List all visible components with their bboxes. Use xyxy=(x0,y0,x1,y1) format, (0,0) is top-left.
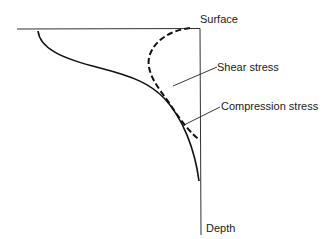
surface-line xyxy=(17,29,200,30)
compression-stress-curve xyxy=(38,31,199,181)
surface-label: Surface xyxy=(200,13,238,25)
shear-stress-label: Shear stress xyxy=(217,61,279,73)
depth-label: Depth xyxy=(206,222,235,234)
stress-depth-diagram xyxy=(0,0,329,239)
shear-stress-curve xyxy=(149,28,200,140)
depth-axis xyxy=(200,29,201,236)
compression-stress-label: Compression stress xyxy=(221,100,318,112)
compression-stress-leader xyxy=(182,107,220,126)
shear-stress-leader xyxy=(173,67,217,86)
